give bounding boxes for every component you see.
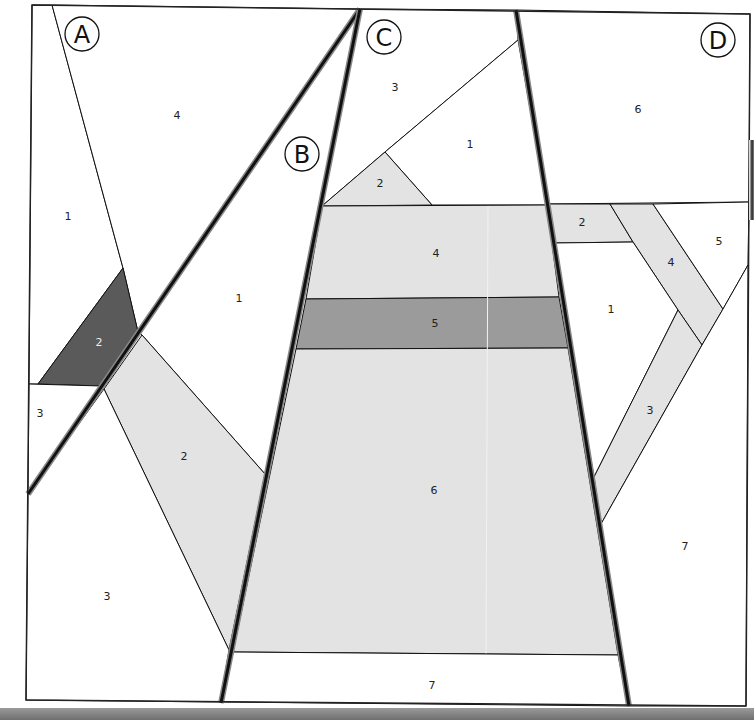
piece-number-c2: 2 bbox=[377, 177, 384, 190]
page-edge-shadow bbox=[749, 140, 754, 220]
pattern-diagram: A B C D 1 2 3 4 1 2 3 1 2 3 4 5 6 7 1 2 … bbox=[0, 0, 754, 720]
bottom-gray-bar bbox=[0, 708, 754, 720]
piece-c7 bbox=[222, 652, 628, 706]
section-label-a: A bbox=[65, 17, 99, 51]
piece-number-d2: 2 bbox=[579, 216, 586, 229]
svg-text:D: D bbox=[709, 27, 727, 55]
piece-c6 bbox=[233, 348, 618, 655]
section-label-c: C bbox=[367, 20, 401, 54]
piece-number-d4: 4 bbox=[668, 256, 675, 269]
piece-number-a2: 2 bbox=[96, 336, 103, 349]
piece-number-b2: 2 bbox=[181, 450, 188, 463]
piece-number-c3: 3 bbox=[392, 81, 399, 94]
svg-text:A: A bbox=[74, 21, 91, 49]
piece-number-a1: 1 bbox=[65, 210, 72, 223]
section-label-b: B bbox=[285, 137, 319, 171]
piece-number-a4: 4 bbox=[174, 109, 181, 122]
piece-number-b1: 1 bbox=[236, 292, 243, 305]
piece-number-d1: 1 bbox=[608, 303, 615, 316]
piece-number-c6: 6 bbox=[431, 484, 438, 497]
piece-number-d5: 5 bbox=[716, 235, 723, 248]
piece-number-b3: 3 bbox=[104, 590, 111, 603]
svg-text:C: C bbox=[376, 24, 393, 52]
piece-number-c1: 1 bbox=[467, 138, 474, 151]
section-label-d: D bbox=[701, 23, 735, 57]
piece-number-d7: 7 bbox=[682, 540, 689, 553]
piece-number-c5: 5 bbox=[432, 317, 439, 330]
piece-number-c4: 4 bbox=[433, 247, 440, 260]
piece-number-d3: 3 bbox=[647, 404, 654, 417]
svg-text:B: B bbox=[294, 141, 310, 169]
piece-number-c7: 7 bbox=[429, 679, 436, 692]
piece-number-d6: 6 bbox=[635, 103, 642, 116]
piece-number-a3: 3 bbox=[37, 407, 44, 420]
